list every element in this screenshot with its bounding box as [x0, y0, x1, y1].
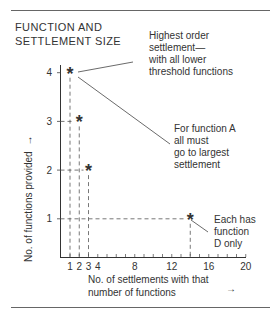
y-tick-label: 2 [46, 165, 52, 176]
y-tick-label: 3 [46, 116, 52, 127]
x-tick-label: 3 [86, 261, 92, 272]
x-tick-label: 16 [203, 261, 215, 272]
chart: 123481216201234 **** Highest order settl… [0, 0, 271, 317]
dashed-guides [61, 78, 191, 257]
leader-line-function-a [78, 77, 170, 144]
annotation-function-d: Each has function D only [214, 214, 258, 249]
x-axis-label-line1: No. of settlements with that [88, 274, 209, 285]
x-tick-label: 4 [95, 261, 101, 272]
annotation-highest-order: Highest order settlement— with all lower… [148, 30, 233, 77]
asterisk-marker-icon: * [85, 161, 92, 181]
y-tick-label: 1 [46, 213, 52, 224]
y-axis-label: No. of functions provided→ [23, 135, 34, 262]
x-tick-label: 2 [76, 261, 82, 272]
x-tick-label: 20 [240, 261, 252, 272]
x-tick-label: 8 [132, 261, 138, 272]
asterisk-marker-icon: * [66, 64, 73, 84]
asterisk-marker-icon: * [76, 112, 83, 132]
x-tick-label: 1 [67, 261, 73, 272]
x-tick-label: 12 [166, 261, 178, 272]
x-axis-arrow: → [226, 283, 236, 294]
x-axis-label-line2: number of functions [88, 287, 176, 298]
asterisk-marker-icon: * [187, 210, 194, 230]
leader-line-highest [78, 62, 133, 72]
annotation-function-a: For function A all must go to largest se… [174, 123, 238, 170]
y-tick-label: 4 [46, 67, 52, 78]
